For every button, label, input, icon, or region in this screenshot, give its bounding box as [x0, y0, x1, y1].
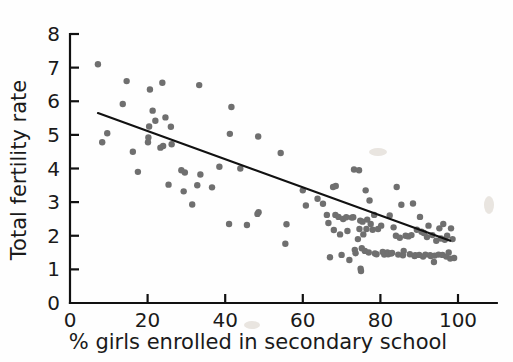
data-point — [338, 252, 344, 258]
data-point — [356, 226, 362, 232]
data-point — [400, 248, 406, 254]
chart-canvas: 012345678 020406080100 Total fertility r… — [0, 0, 513, 362]
data-point — [228, 104, 234, 110]
data-point — [327, 254, 333, 260]
data-point — [227, 131, 233, 137]
data-point — [408, 232, 414, 238]
x-tick-label: 20 — [135, 308, 160, 332]
data-point — [157, 144, 163, 150]
data-point — [152, 118, 158, 124]
x-tick-label: 40 — [212, 308, 237, 332]
y-tick-label: 7 — [47, 56, 60, 80]
y-tick-label: 0 — [47, 291, 60, 315]
y-axis-tick-labels: 012345678 — [47, 22, 60, 315]
data-point — [99, 139, 105, 145]
data-point — [333, 183, 339, 189]
data-point — [162, 114, 168, 120]
paper-artifacts — [244, 148, 494, 329]
data-point — [120, 101, 126, 107]
data-point — [369, 227, 375, 233]
data-point — [254, 211, 260, 217]
y-tick-label: 5 — [47, 123, 60, 147]
data-point — [168, 141, 174, 147]
data-point — [373, 251, 379, 257]
data-point — [420, 253, 426, 259]
data-point — [95, 61, 101, 67]
data-point — [358, 268, 364, 274]
y-tick-label: 2 — [47, 224, 60, 248]
data-point — [410, 200, 416, 206]
data-point — [159, 80, 165, 86]
data-point — [303, 202, 309, 208]
data-point — [346, 257, 352, 263]
data-point — [343, 214, 349, 220]
y-tick-label: 3 — [47, 190, 60, 214]
data-point — [417, 214, 423, 220]
y-tick-label: 8 — [47, 22, 60, 46]
data-point — [209, 184, 215, 190]
x-axis-tick-labels: 020406080100 — [64, 308, 477, 332]
x-tick-label: 60 — [290, 308, 315, 332]
data-point — [168, 124, 174, 130]
x-tick-label: 100 — [439, 308, 477, 332]
data-point — [244, 222, 250, 228]
data-point — [277, 150, 283, 156]
scatter-plot-figure: 012345678 020406080100 Total fertility r… — [0, 0, 513, 362]
x-tick-label: 0 — [64, 308, 77, 332]
x-axis-label: % girls enrolled in secondary school — [69, 330, 447, 354]
data-point — [104, 130, 110, 136]
data-point — [355, 236, 361, 242]
data-point — [451, 255, 457, 261]
data-point — [440, 221, 446, 227]
data-point — [282, 241, 288, 247]
data-point — [325, 220, 331, 226]
data-point — [425, 222, 431, 228]
data-point — [352, 250, 358, 256]
data-point — [431, 259, 437, 265]
y-tick-label: 1 — [47, 257, 60, 281]
data-point — [283, 221, 289, 227]
data-point — [165, 181, 171, 187]
data-point — [350, 214, 356, 220]
scatter-points-group — [95, 61, 458, 274]
data-point — [147, 86, 153, 92]
y-tick-label: 4 — [47, 157, 60, 181]
data-point — [145, 139, 151, 145]
data-point — [363, 226, 369, 232]
x-axis-ticks — [148, 294, 458, 303]
data-point — [366, 197, 372, 203]
data-point — [448, 225, 454, 231]
data-point — [180, 188, 186, 194]
y-axis-ticks — [70, 34, 79, 269]
data-point — [394, 184, 400, 190]
data-point — [146, 123, 152, 129]
data-point — [182, 169, 188, 175]
data-point — [366, 249, 372, 255]
data-point — [130, 148, 136, 154]
data-point — [320, 201, 326, 207]
y-tick-label: 6 — [47, 89, 60, 113]
data-point — [197, 171, 203, 177]
data-point — [356, 167, 362, 173]
data-point — [324, 212, 330, 218]
data-point — [331, 227, 337, 233]
data-point — [397, 235, 403, 241]
data-point — [389, 250, 395, 256]
data-point — [337, 231, 343, 237]
trend-line — [98, 113, 450, 241]
data-point — [360, 231, 366, 237]
data-point — [123, 78, 129, 84]
data-point — [314, 196, 320, 202]
data-point — [194, 182, 200, 188]
data-point — [216, 164, 222, 170]
data-point — [196, 82, 202, 88]
data-point — [398, 202, 404, 208]
data-point — [368, 221, 374, 227]
data-point — [362, 187, 368, 193]
data-point — [149, 107, 155, 113]
data-point — [390, 224, 396, 230]
x-tick-label: 80 — [368, 308, 393, 332]
y-axis-label: Total fertility rate — [7, 80, 31, 261]
data-point — [226, 221, 232, 227]
data-point — [135, 169, 141, 175]
